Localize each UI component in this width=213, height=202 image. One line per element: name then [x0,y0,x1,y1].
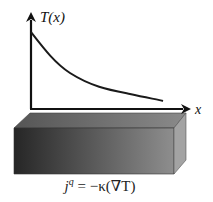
x-axis-label: x [194,102,202,117]
heat-flux-equation: jq = −κ(∇T) [0,176,200,195]
equation-rest: = −κ(∇T) [74,178,136,194]
heat-conduction-diagram: T(x) x [0,0,213,202]
conducting-bar [14,113,186,174]
y-axis-label: T(x) [40,9,65,26]
bar-top-face [14,113,186,128]
temperature-curve [31,32,163,101]
axes [26,12,191,114]
bar-front-face [14,128,174,174]
